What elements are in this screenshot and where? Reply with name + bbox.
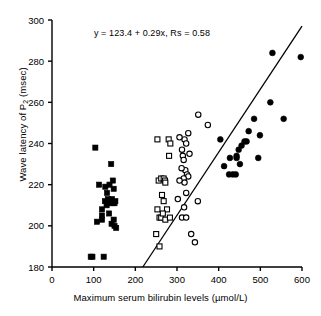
- svg-text:200: 200: [127, 274, 143, 285]
- data-point-filled-circles: [281, 116, 287, 122]
- data-point-open-squares: [155, 137, 160, 142]
- y-axis-label-prefix: Wave latency of P: [17, 104, 28, 182]
- svg-text:280: 280: [28, 56, 44, 67]
- data-point-open-circles: [192, 240, 197, 245]
- data-point-filled-squares: [111, 217, 116, 222]
- data-point-filled-circles: [244, 139, 250, 145]
- data-point-open-circles: [183, 190, 188, 195]
- data-point-open-circles: [179, 147, 184, 152]
- data-point-filled-circles: [251, 116, 257, 122]
- data-point-open-squares: [163, 180, 168, 185]
- data-point-open-circles: [183, 215, 188, 220]
- data-point-open-circles: [179, 166, 184, 171]
- data-point-filled-circles: [237, 161, 243, 167]
- axes: [52, 20, 302, 267]
- svg-text:600: 600: [294, 274, 310, 285]
- data-point-open-squares: [154, 232, 159, 237]
- data-point-filled-circles: [217, 136, 223, 142]
- y-axis-label-subscript: 2: [22, 100, 29, 104]
- data-point-open-squares: [160, 211, 165, 216]
- data-point-open-circles: [186, 131, 191, 136]
- data-point-open-circles: [177, 135, 182, 140]
- data-point-open-squares: [160, 192, 165, 197]
- data-point-filled-squares: [112, 223, 117, 228]
- data-point-open-squares: [168, 141, 173, 146]
- data-point-open-squares: [157, 244, 162, 249]
- data-point-filled-squares: [111, 186, 116, 191]
- regression-line: [143, 26, 302, 267]
- svg-text:100: 100: [86, 274, 102, 285]
- data-point-open-circles: [181, 205, 186, 210]
- data-point-open-squares: [167, 153, 172, 158]
- data-point-filled-squares: [96, 182, 101, 187]
- data-point-open-circles: [177, 178, 182, 183]
- x-axis-label-prefix: Maximum serum bilirubin levels (: [73, 292, 215, 303]
- data-point-filled-squares: [110, 178, 115, 183]
- data-point-open-squares: [161, 199, 166, 204]
- data-point-open-circles: [183, 141, 188, 146]
- data-point-open-circles: [175, 196, 180, 201]
- data-point-open-circles: [196, 112, 201, 117]
- data-point-filled-squares: [94, 219, 99, 224]
- data-point-filled-circles: [270, 50, 276, 56]
- svg-text:200: 200: [28, 220, 44, 231]
- data-point-filled-squares: [109, 161, 114, 166]
- data-point-open-squares: [167, 215, 172, 220]
- svg-text:0: 0: [49, 274, 54, 285]
- data-point-open-circles: [188, 231, 193, 236]
- svg-text:220: 220: [28, 179, 44, 190]
- data-point-filled-circles: [246, 128, 252, 134]
- data-point-filled-squares: [101, 254, 106, 259]
- data-point-filled-squares: [113, 199, 118, 204]
- data-point-filled-circles: [255, 155, 261, 161]
- data-point-filled-squares: [108, 199, 113, 204]
- tick-labels: 0100200300400500600180200220240260280300: [28, 15, 310, 286]
- data-point-filled-squares: [99, 213, 104, 218]
- regression-annotation: y = 123.4 + 0.29x, Rs = 0.58: [62, 28, 242, 38]
- data-point-open-circles: [181, 157, 186, 162]
- svg-text:240: 240: [28, 138, 44, 149]
- data-point-filled-circles: [257, 132, 263, 138]
- y-axis-label-suffix: (msec): [17, 67, 28, 99]
- svg-text:180: 180: [28, 262, 44, 273]
- data-point-open-squares: [155, 207, 160, 212]
- plot-canvas: 0100200300400500600180200220240260280300: [0, 0, 321, 316]
- data-point-open-circles: [205, 122, 210, 127]
- x-axis-label-units: µmol/L: [215, 292, 244, 303]
- data-point-filled-circles: [221, 163, 227, 169]
- data-point-filled-circles: [233, 171, 239, 177]
- data-point-open-circles: [195, 198, 200, 203]
- data-point-filled-circles: [267, 99, 273, 105]
- x-axis-label-suffix: ): [244, 292, 247, 303]
- data-point-filled-squares: [93, 145, 98, 150]
- tick-marks: [48, 20, 302, 271]
- data-point-open-circles: [187, 151, 192, 156]
- scatter-plot-figure: 0100200300400500600180200220240260280300…: [0, 0, 321, 316]
- data-point-filled-squares: [99, 207, 104, 212]
- svg-text:260: 260: [28, 97, 44, 108]
- data-point-filled-circles: [298, 54, 304, 60]
- data-point-filled-circles: [234, 155, 240, 161]
- data-point-filled-circles: [236, 147, 242, 153]
- y-axis-label: Wave latency of P2 (msec): [17, 39, 30, 209]
- data-point-filled-squares: [90, 254, 95, 259]
- svg-text:300: 300: [28, 15, 44, 26]
- x-axis-label: Maximum serum bilirubin levels (µmol/L): [0, 292, 321, 303]
- data-points: [88, 50, 304, 259]
- data-point-filled-squares: [104, 190, 109, 195]
- svg-text:500: 500: [252, 274, 268, 285]
- data-point-filled-circles: [227, 155, 233, 161]
- svg-text:300: 300: [169, 274, 185, 285]
- svg-text:400: 400: [211, 274, 227, 285]
- data-point-filled-squares: [106, 211, 111, 216]
